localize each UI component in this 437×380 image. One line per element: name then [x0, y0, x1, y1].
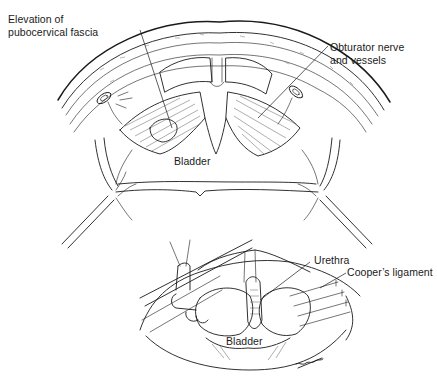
label-pubocervical-line1: Elevation of — [8, 13, 98, 26]
leader-urethra — [260, 262, 310, 300]
label-bladder-bottom: Bladder — [226, 335, 263, 348]
leader-coopers — [320, 273, 346, 288]
label-obturator-line1: Obturator nerve — [330, 41, 404, 54]
label-pubocervical-fascia: Elevation of pubocervical fascia — [8, 13, 98, 38]
label-urethra: Urethra — [314, 254, 349, 267]
label-pubocervical-line2: pubocervical fascia — [8, 26, 98, 39]
label-bladder-top: Bladder — [174, 155, 211, 168]
leader-obturator — [258, 46, 328, 118]
artist-signature — [296, 358, 323, 368]
label-coopers-ligament: Cooper’s ligament — [347, 266, 433, 279]
leader-pubocervical — [140, 30, 172, 128]
label-obturator-line2: and vessels — [330, 54, 404, 67]
label-obturator-nerve: Obturator nerve and vessels — [330, 41, 404, 66]
